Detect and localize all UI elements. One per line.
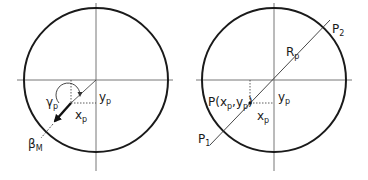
label-x: xp	[257, 109, 269, 125]
label-p2: P2	[332, 22, 344, 38]
left-panel: γp yp xp βM	[17, 3, 173, 171]
label-x: xp	[75, 108, 87, 124]
radial-line	[71, 80, 96, 103]
chord-line	[210, 20, 330, 145]
label-y: yp	[278, 90, 290, 106]
label-beta: βM	[28, 137, 43, 153]
label-p1: P1	[198, 132, 210, 148]
label-r: Rp	[286, 45, 299, 61]
angle-arc	[56, 83, 80, 103]
diagram-canvas: γp yp xp βM P2 Rp P(xp,yp) yp xp P1	[0, 0, 368, 180]
label-point: P(xp,yp)	[208, 95, 253, 111]
right-panel: P2 Rp P(xp,yp) yp xp P1	[196, 3, 352, 171]
label-y: yp	[99, 90, 111, 106]
